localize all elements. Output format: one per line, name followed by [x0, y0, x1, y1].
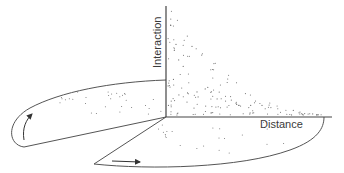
interaction-distance-diagram: Interaction Distance [0, 0, 344, 173]
y-axis-label: Interaction [151, 17, 163, 68]
upper-loop-path [12, 80, 166, 147]
scatter-dots [60, 11, 322, 154]
straight-arrow-right-icon [112, 161, 140, 162]
curved-arrow-up-icon [23, 114, 32, 140]
x-axis-label: Distance [260, 118, 303, 130]
